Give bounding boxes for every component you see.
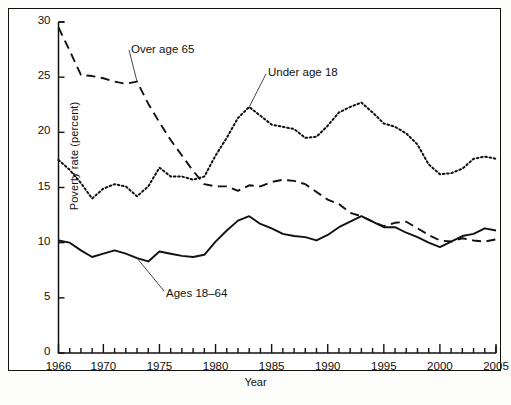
series-line-3 xyxy=(59,216,497,261)
annotation-over-age-65: Over age 65 xyxy=(131,43,194,55)
annotation-ages-18-64: Ages 18–64 xyxy=(166,287,227,299)
y-tick-label: 30 xyxy=(25,14,51,26)
figure: Poverty rate (percent) Year 051015202530… xyxy=(0,0,511,405)
leader-line-3 xyxy=(137,258,164,291)
x-tick-label: 1975 xyxy=(136,360,182,372)
x-tick-label: 1985 xyxy=(249,360,295,372)
x-tick-label: 1990 xyxy=(305,360,351,372)
x-axis-title: Year xyxy=(0,376,511,388)
y-tick-label: 25 xyxy=(25,69,51,81)
annotation-under-age-18: Under age 18 xyxy=(268,66,338,78)
x-tick-label: 1966 xyxy=(36,360,82,372)
annotation-leader-lines xyxy=(129,50,266,291)
series-lines xyxy=(59,28,497,262)
y-tick-label: 10 xyxy=(25,235,51,247)
x-tick-label: 2000 xyxy=(417,360,463,372)
y-tick-label: 0 xyxy=(25,345,51,357)
y-axis-title: Poverty rate (percent) xyxy=(68,76,80,236)
y-tick-label: 20 xyxy=(25,124,51,136)
series-line-2 xyxy=(59,103,497,199)
leader-line-2 xyxy=(249,74,266,107)
x-tick-label: 1995 xyxy=(361,360,407,372)
x-tick-label: 2005 xyxy=(473,360,511,372)
y-tick-label: 5 xyxy=(25,290,51,302)
x-tick-label: 1980 xyxy=(193,360,239,372)
series-line-1 xyxy=(59,28,497,242)
y-tick-label: 15 xyxy=(25,180,51,192)
x-tick-label: 1970 xyxy=(80,360,126,372)
